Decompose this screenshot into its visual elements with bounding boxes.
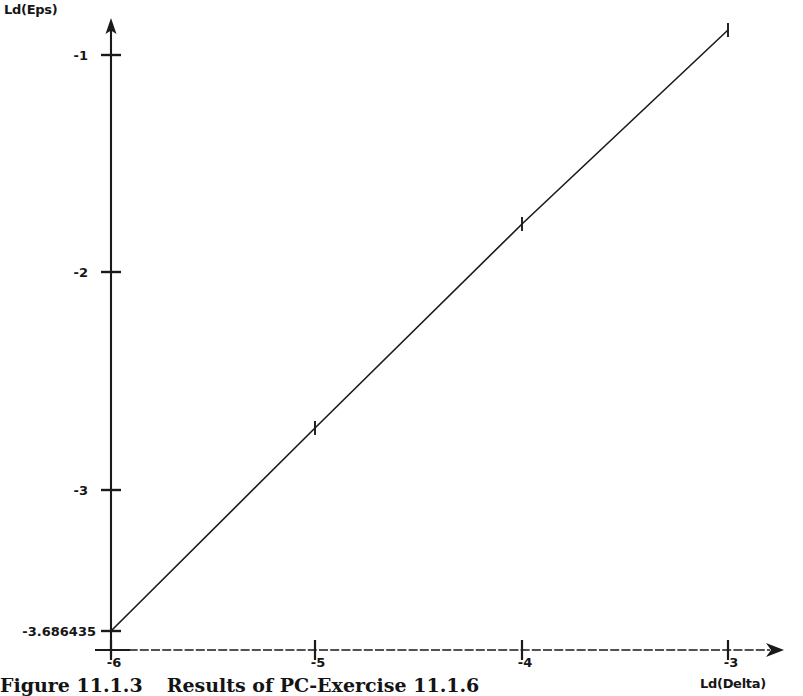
x-axis-title: Ld(Delta) <box>700 676 766 691</box>
figure-caption-number: Figure 11.1.3 <box>0 674 143 696</box>
chart-plot-area <box>0 0 803 670</box>
x-tick-label--5: -5 <box>311 655 325 670</box>
y-tick-label--1: -1 <box>0 48 88 63</box>
y-axis-title: Ld(Eps) <box>4 2 57 17</box>
x-tick-label--4: -4 <box>518 655 532 670</box>
y-axis <box>106 18 117 655</box>
figure-container: Ld(Eps) Ld(Delta) -1 -2 -3 -3.686435 -6 … <box>0 0 803 696</box>
y-tick-label--2: -2 <box>0 265 88 280</box>
data-series-line <box>111 30 728 631</box>
x-tick-label--6: -6 <box>107 655 121 670</box>
figure-caption: Figure 11.1.3Results of PC-Exercise 11.1… <box>0 674 620 696</box>
data-point-markers <box>111 23 728 638</box>
x-tick-label--3: -3 <box>724 655 738 670</box>
figure-caption-text: Results of PC-Exercise 11.1.6 <box>167 674 480 696</box>
y-tick-label--3: -3 <box>0 483 88 498</box>
y-tick-label--3.686435: -3.686435 <box>0 624 96 639</box>
x-axis <box>95 643 784 657</box>
